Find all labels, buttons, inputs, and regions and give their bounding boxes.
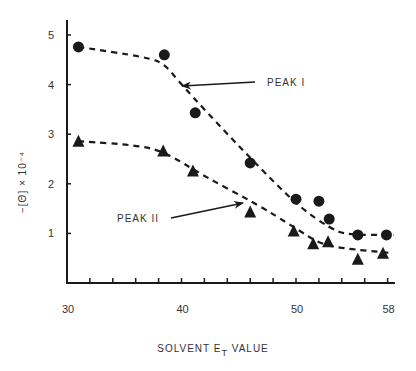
x-axis-title: SOLVENT ET VALUE <box>157 343 269 358</box>
x-tick-label: 30 <box>62 303 74 315</box>
chart-canvas: 1234530405058 PEAK IPEAK II −[Θ] × 10⁻⁴ … <box>0 0 416 371</box>
triangle-marker <box>288 224 300 236</box>
y-tick-label: 4 <box>48 79 54 91</box>
triangle-marker <box>322 235 334 247</box>
circle-marker <box>159 49 170 60</box>
x-tick-label: 50 <box>291 303 303 315</box>
circle-marker <box>313 196 324 207</box>
triangle-marker <box>352 253 364 265</box>
annotations: PEAK IPEAK II <box>117 77 305 224</box>
fit-curve-peak-ii <box>78 141 393 253</box>
annotation-arrow <box>182 82 255 86</box>
y-axis-title: −[Θ] × 10⁻⁴ <box>17 151 28 213</box>
data-markers <box>72 41 392 264</box>
x-tick-label: 40 <box>176 303 188 315</box>
circle-marker <box>352 229 363 240</box>
y-tick-label: 2 <box>48 178 54 190</box>
annotation-arrow <box>171 203 243 218</box>
fit-curve-peak-i <box>78 47 393 235</box>
x-axis-title-main: SOLVENT E <box>157 343 221 354</box>
triangle-marker <box>244 206 256 218</box>
y-tick-label: 3 <box>48 128 54 140</box>
x-axis-title-tail: VALUE <box>228 343 269 354</box>
circle-marker <box>73 41 84 52</box>
circle-marker <box>291 194 302 205</box>
y-tick-label: 5 <box>48 29 54 41</box>
y-tick-label: 1 <box>48 227 54 239</box>
circle-marker <box>324 214 335 225</box>
chart: 1234530405058 PEAK IPEAK II −[Θ] × 10⁻⁴ … <box>0 0 416 371</box>
x-tick-label: 58 <box>382 303 394 315</box>
axes: 1234530405058 <box>48 20 395 315</box>
circle-marker <box>190 107 201 118</box>
circle-marker <box>381 229 392 240</box>
annotation-label: PEAK I <box>267 77 305 88</box>
annotation-label: PEAK II <box>117 213 159 224</box>
triangle-marker <box>307 237 319 249</box>
circle-marker <box>245 157 256 168</box>
